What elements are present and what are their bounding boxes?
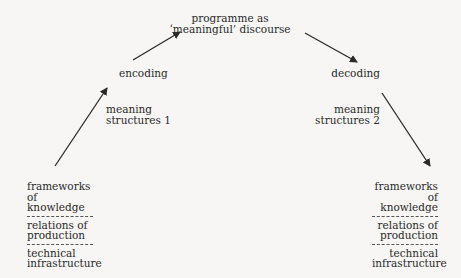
meaning-structures-2-label: meaning structures 2 [310,104,380,126]
right-divider-2 [372,244,438,245]
right-block-0-line1: frameworks [372,181,438,192]
decoding-label: decoding [330,68,380,79]
right-structures-block: frameworks of knowledge relations of pro… [372,180,438,271]
left-divider-1 [27,216,93,217]
left-block-1-line2: production [27,230,93,241]
meaning-structures-1-label: meaning structures 1 [106,104,171,126]
programme-to-decoding-arrow [305,33,357,62]
left-technical-infrastructure: technical infrastructure [27,247,93,271]
programme-label: programme as ‘meaningful’ discourse [180,13,280,35]
programme-line2: ‘meaningful’ discourse [160,24,300,35]
left-block-0-line2: of knowledge [27,192,93,213]
right-block-1-line2: production [372,230,438,241]
right-relations-of-production: relations of production [372,219,438,243]
meaning-structures-2-line2: structures 2 [310,115,380,126]
right-technical-infrastructure: technical infrastructure [372,247,438,271]
meaning-structures-1-line2: structures 1 [106,115,171,126]
left-relations-of-production: relations of production [27,219,93,243]
left-block-2-line2: infrastructure [27,258,93,269]
right-divider-1 [372,216,438,217]
left-divider-2 [27,244,93,245]
encoding-to-programme-arrow [133,32,180,60]
right-block-0-line2: of knowledge [372,192,438,213]
right-down-arrow [382,93,430,166]
left-structures-block: frameworks of knowledge relations of pro… [27,180,93,271]
left-up-arrow [55,88,107,166]
right-block-2-line2: infrastructure [372,258,438,269]
encoding-label: encoding [119,68,168,79]
left-block-0-line1: frameworks [27,181,93,192]
left-frameworks-of-knowledge: frameworks of knowledge [27,180,93,215]
right-frameworks-of-knowledge: frameworks of knowledge [372,180,438,215]
